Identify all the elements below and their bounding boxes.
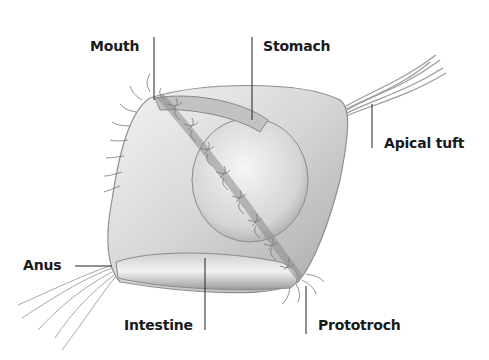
label-intestine: Intestine (124, 317, 193, 333)
label-apical-tuft: Apical tuft (384, 135, 464, 151)
label-stomach: Stomach (263, 38, 330, 54)
label-mouth: Mouth (90, 38, 139, 54)
label-prototroch: Prototroch (318, 317, 401, 333)
apical-tuft-strands (343, 55, 446, 116)
stomach-organ (192, 118, 308, 242)
anal-strands (18, 266, 116, 350)
trochophore-illustration (0, 0, 489, 360)
label-anus: Anus (23, 257, 61, 273)
